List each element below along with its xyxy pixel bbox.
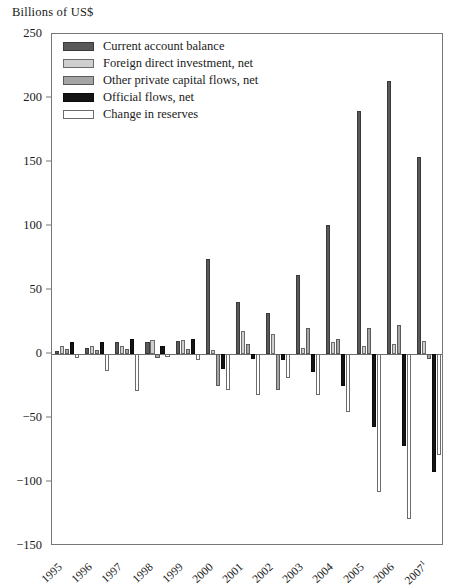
- bar: [75, 354, 79, 358]
- x-tick-label: 20071: [401, 558, 430, 586]
- bar: [130, 339, 134, 354]
- bar: [145, 342, 149, 354]
- bar: [392, 344, 396, 354]
- bar: [221, 354, 225, 369]
- bar: [90, 346, 94, 354]
- bar: [95, 350, 99, 354]
- bar: [206, 259, 210, 354]
- bar: [422, 341, 426, 354]
- legend-swatch: [63, 59, 94, 68]
- legend-item-label: Foreign direct investment, net: [103, 56, 253, 71]
- bar: [216, 354, 220, 386]
- x-tick-label: 2004: [310, 561, 335, 585]
- bar: [176, 341, 180, 354]
- legend-item-label: Other private capital flows, net: [103, 73, 258, 88]
- legend-item: Official flows, net: [63, 89, 313, 106]
- bar: [135, 354, 139, 391]
- bar: [125, 349, 129, 354]
- bar: [160, 346, 164, 354]
- bar: [417, 157, 421, 354]
- x-tick-label: 2001: [220, 561, 245, 585]
- x-tick-label: 1996: [69, 561, 94, 585]
- bar: [251, 354, 255, 359]
- bar: [316, 354, 320, 395]
- bar: [341, 354, 345, 386]
- x-tick-label: 2002: [250, 561, 275, 585]
- legend-swatch: [63, 110, 94, 119]
- bar: [437, 354, 441, 455]
- legend-swatch: [63, 42, 94, 51]
- x-tick-label: 1999: [160, 561, 185, 585]
- legend-item: Current account balance: [63, 38, 313, 55]
- bar: [357, 111, 361, 354]
- bar: [281, 354, 285, 360]
- bar: [296, 275, 300, 354]
- bar: [271, 334, 275, 354]
- x-tick-label: 1998: [129, 561, 154, 585]
- bar: [236, 302, 240, 354]
- bar: [367, 328, 371, 354]
- footnote-marker: 1: [418, 558, 427, 567]
- legend-item: Other private capital flows, net: [63, 72, 313, 89]
- bar: [100, 342, 104, 354]
- bar: [387, 81, 391, 354]
- bar: [211, 350, 215, 354]
- bar: [60, 346, 64, 354]
- bar: [372, 354, 376, 427]
- bar: [226, 354, 230, 390]
- bar: [301, 348, 305, 354]
- bar: [331, 342, 335, 354]
- legend-item: Foreign direct investment, net: [63, 55, 313, 72]
- bar: [306, 328, 310, 354]
- bar: [120, 346, 124, 354]
- x-tick-label: 1995: [39, 561, 64, 585]
- bar: [241, 331, 245, 354]
- bar: [85, 348, 89, 354]
- bar: [402, 354, 406, 446]
- legend-item: Change in reserves: [63, 106, 313, 123]
- bar: [336, 339, 340, 354]
- bar: [311, 354, 315, 372]
- legend-item-label: Current account balance: [103, 39, 224, 54]
- chart-legend: Current account balanceForeign direct in…: [63, 38, 313, 123]
- x-tick-label: 2005: [341, 561, 366, 585]
- bar: [181, 340, 185, 354]
- bar: [326, 225, 330, 354]
- legend-item-label: Official flows, net: [103, 90, 194, 105]
- x-tick-label: 2003: [280, 561, 305, 585]
- legend-item-label: Change in reserves: [103, 107, 198, 122]
- bar: [362, 346, 366, 354]
- x-tick-label: 2000: [190, 561, 215, 585]
- bar: [55, 351, 59, 354]
- bar: [165, 354, 169, 357]
- bar: [115, 342, 119, 354]
- bar: [191, 339, 195, 354]
- bar: [397, 325, 401, 354]
- x-tick-label: 1997: [99, 561, 124, 585]
- bar: [105, 354, 109, 371]
- bar: [155, 354, 159, 358]
- legend-swatch: [63, 76, 94, 85]
- bar: [407, 354, 411, 519]
- bar: [70, 342, 74, 354]
- bar: [377, 354, 381, 492]
- bar: [432, 354, 436, 472]
- bar: [186, 349, 190, 354]
- bar: [276, 354, 280, 390]
- bar: [266, 313, 270, 354]
- bar: [286, 354, 290, 378]
- bar: [256, 354, 260, 395]
- bar: [246, 344, 250, 354]
- bar: [427, 354, 431, 359]
- bar: [65, 349, 69, 354]
- bar: [346, 354, 350, 412]
- bar: [150, 340, 154, 354]
- legend-swatch: [63, 93, 94, 102]
- x-tick-label: 2006: [371, 561, 396, 585]
- bar: [196, 354, 200, 360]
